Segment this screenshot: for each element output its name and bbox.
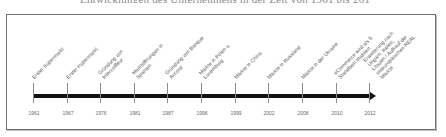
timeline-tick [134,83,135,103]
timeline-tick [235,83,236,103]
timeline-tick [201,83,202,103]
arrow-right-icon [370,92,376,100]
year-label: 1976 [86,110,116,116]
year-label: 1996 [187,110,217,116]
year-label: 1981 [120,110,150,116]
year-label: 2012 [355,110,385,116]
timeline-tick [67,83,68,103]
year-label: 2008 [288,110,318,116]
year-label: 2010 [322,110,352,116]
timeline-tick [167,83,168,103]
figure-caption: Entwicklungen des Unternehmens in der Ze… [80,0,370,3]
year-label: 1999 [221,110,251,116]
timeline-axis [33,94,371,98]
timeline-tick [100,83,101,103]
timeline-tick [302,83,303,103]
timeline-tick [268,83,269,103]
year-label: 1967 [53,110,83,116]
timeline-tick [33,83,34,103]
year-label: 1987 [153,110,183,116]
year-label: 1961 [19,110,49,116]
timeline-tick [369,83,370,103]
timeline-tick [336,83,337,103]
year-label: 2002 [254,110,284,116]
